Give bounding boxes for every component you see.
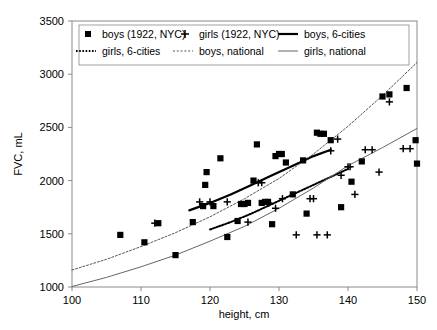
y-tick-label: 1500 xyxy=(40,228,64,240)
data-point-boys xyxy=(279,151,285,157)
data-point-boys xyxy=(404,85,410,91)
x-axis-label: height, cm xyxy=(219,308,270,320)
y-tick-label: 3000 xyxy=(40,68,64,80)
y-tick-label: 1000 xyxy=(40,281,64,293)
data-point-boys xyxy=(359,158,365,164)
data-point-boys xyxy=(224,234,230,240)
data-point-boys xyxy=(338,204,344,210)
x-tick-label: 150 xyxy=(408,294,426,306)
chart-legend: boys (1922, NYC)girls (1922, NYC)boys, 6… xyxy=(76,25,409,65)
x-tick-label: 140 xyxy=(339,294,357,306)
legend-label: girls (1922, NYC) xyxy=(199,28,280,40)
data-point-boys xyxy=(245,200,251,206)
data-point-boys xyxy=(304,211,310,217)
data-point-boys xyxy=(283,159,289,165)
legend-label: boys, national xyxy=(199,45,264,57)
data-point-boys xyxy=(200,203,206,209)
data-point-boys xyxy=(254,141,260,147)
legend-label: boys, 6-cities xyxy=(304,28,365,40)
data-point-boys xyxy=(321,131,327,137)
data-point-boys xyxy=(379,93,385,99)
data-point-boys xyxy=(269,221,275,227)
data-point-boys xyxy=(190,219,196,225)
legend-label: girls, national xyxy=(304,45,366,57)
y-tick-label: 2500 xyxy=(40,121,64,133)
data-point-boys xyxy=(290,191,296,197)
data-point-boys xyxy=(117,232,123,238)
data-point-boys xyxy=(348,179,354,185)
data-point-boys xyxy=(414,161,420,167)
data-point-boys xyxy=(235,218,241,224)
data-point-boys xyxy=(300,157,306,163)
y-tick-label: 2000 xyxy=(40,175,64,187)
y-axis-label: FVC, mL xyxy=(12,132,24,175)
legend-label: girls, 6-cities xyxy=(102,45,160,57)
data-point-boys xyxy=(141,239,147,245)
data-point-boys xyxy=(202,182,208,188)
data-point-boys xyxy=(217,155,223,161)
x-tick-label: 130 xyxy=(270,294,288,306)
data-point-boys xyxy=(204,169,210,175)
x-tick-label: 120 xyxy=(201,294,219,306)
data-point-boys xyxy=(172,252,178,258)
data-point-boys xyxy=(328,137,334,143)
chart-canvas: 100110120130140150 100015002000250030003… xyxy=(0,0,437,330)
x-tick-label: 100 xyxy=(63,294,81,306)
data-point-boys xyxy=(386,91,392,97)
y-tick-label: 3500 xyxy=(40,15,64,27)
x-tick-label: 110 xyxy=(132,294,150,306)
data-point-boys xyxy=(413,137,419,143)
fvc-height-scatter-chart: 100110120130140150 100015002000250030003… xyxy=(0,0,437,330)
data-point-boys xyxy=(210,203,216,209)
legend-label: boys (1922, NYC) xyxy=(102,28,185,40)
